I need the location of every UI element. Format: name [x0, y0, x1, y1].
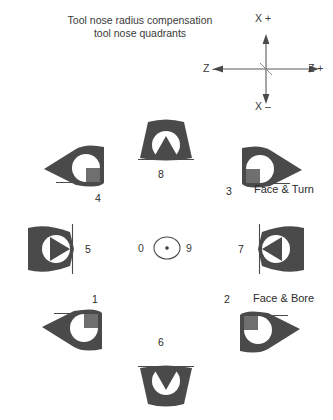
title-line-1: Tool nose radius compensation — [45, 14, 235, 27]
note-face-and-bore: Face & Bore — [253, 292, 314, 304]
quadrant-label-5: 5 — [85, 243, 91, 255]
quadrant-label-3: 3 — [226, 185, 232, 197]
tool-insert-icon-6 — [134, 358, 198, 410]
quadrant-label-4: 4 — [95, 192, 101, 204]
tool-insert-icon-5 — [22, 222, 82, 276]
quadrant-label-7: 7 — [238, 243, 244, 255]
tool-insert-icon-8 — [134, 118, 198, 168]
note-face-and-turn: Face & Turn — [254, 183, 314, 195]
center-number-right: 9 — [186, 242, 192, 254]
axis-label-x-negative: X – — [255, 100, 271, 112]
tool-insert-icon-2 — [236, 305, 302, 355]
quadrant-label-6: 6 — [158, 336, 164, 348]
axis-label-z-positive: Z + — [308, 62, 323, 74]
tool-insert-icon-7 — [250, 222, 310, 276]
tool-insert-icon-1 — [40, 303, 106, 353]
axis-label-x-positive: X + — [255, 12, 271, 24]
tool-nose-quadrant-diagram: Tool nose radius compensation tool nose … — [0, 0, 333, 420]
center-point-icon — [152, 235, 182, 261]
center-number-left: 0 — [138, 242, 144, 254]
axis-label-z-negative: Z – — [203, 62, 218, 74]
quadrant-label-8: 8 — [158, 168, 164, 180]
quadrant-label-1: 1 — [92, 293, 98, 305]
tool-insert-icon-4 — [42, 143, 108, 191]
quadrant-label-2: 2 — [224, 293, 230, 305]
